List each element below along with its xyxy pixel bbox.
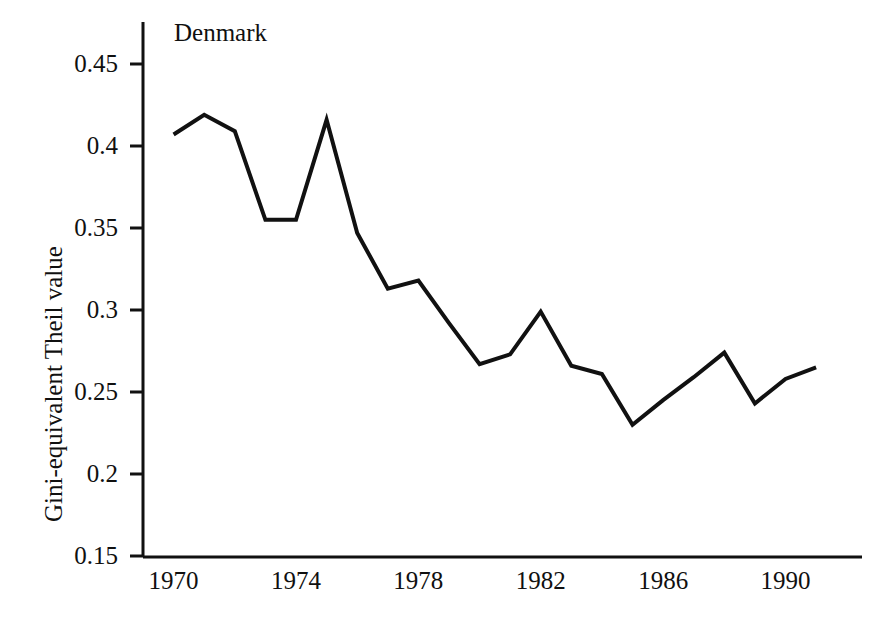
x-tick-label: 1974 <box>246 568 346 593</box>
y-tick-label: 0.35 <box>30 215 118 240</box>
x-tick-label: 1990 <box>736 568 836 593</box>
x-tick-label: 1970 <box>124 568 224 593</box>
line-chart-plot <box>0 0 886 624</box>
axis-lines <box>143 22 862 557</box>
y-axis-ticks <box>130 64 143 556</box>
series-annotation-denmark: Denmark <box>174 19 267 47</box>
y-axis-title: Gini-equivalent Theil value <box>40 246 68 522</box>
x-tick-label: 1986 <box>613 568 713 593</box>
y-tick-label: 0.4 <box>30 133 118 158</box>
chart-figure: 0.150.20.250.30.350.40.45 19701974197819… <box>0 0 886 624</box>
x-tick-label: 1978 <box>368 568 468 593</box>
data-series-line <box>174 115 817 425</box>
x-tick-label: 1982 <box>491 568 591 593</box>
y-tick-label: 0.45 <box>30 51 118 76</box>
y-tick-label: 0.15 <box>30 543 118 568</box>
